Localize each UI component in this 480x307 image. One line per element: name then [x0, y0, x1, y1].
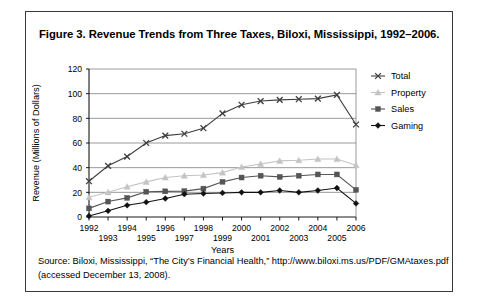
data-point-gaming-1999 [220, 190, 226, 196]
legend-marker-diamond-icon [375, 123, 381, 129]
y-tick-label: 120 [68, 64, 83, 74]
chart-legend: TotalPropertySalesGaming [371, 71, 426, 130]
data-point-sales-2000 [239, 175, 244, 180]
data-point-gaming-1995 [143, 199, 149, 205]
x-tick-label: 1993 [99, 233, 118, 243]
legend-item-gaming[interactable]: Gaming [371, 121, 423, 131]
x-tick-label: 1994 [118, 223, 137, 233]
legend-label: Property [391, 88, 426, 98]
data-point-gaming-1993 [105, 208, 111, 214]
series-line-total [89, 95, 356, 181]
source-note-line-2: (accessed December 13, 2008). [38, 269, 446, 283]
x-tick-label: 1997 [175, 233, 194, 243]
x-tick-label: 2002 [270, 223, 289, 233]
x-tick-label: 2000 [232, 223, 251, 233]
y-tick-label: 60 [72, 138, 82, 148]
y-tick-label: 100 [68, 89, 83, 99]
x-axis-label-text: Years [211, 245, 235, 253]
y-tick-label: 20 [72, 188, 82, 198]
y-tick-label: 80 [72, 114, 82, 124]
data-point-sales-1996 [163, 189, 168, 194]
data-series-group [86, 92, 359, 219]
y-tick-label: 40 [72, 163, 82, 173]
y-axis-tick-labels: 020406080100120 [68, 64, 89, 222]
data-point-gaming-1992 [86, 213, 92, 219]
revenue-trends-line-chart: 020406080100120 199219931994199519961997… [26, 48, 452, 253]
x-tick-label: 2004 [308, 223, 327, 233]
x-tick-label: 1992 [79, 223, 98, 233]
data-point-gaming-2000 [239, 189, 245, 195]
data-point-sales-1994 [125, 195, 130, 200]
x-axis-tick-labels: 1992199319941995199619971998199920002001… [79, 223, 365, 243]
series-gaming [86, 185, 359, 219]
chart-plot-area: 020406080100120 199219931994199519961997… [26, 48, 452, 253]
x-tick-label: 2006 [346, 223, 365, 233]
data-point-sales-2005 [334, 172, 339, 177]
data-point-sales-2006 [354, 187, 359, 192]
data-point-sales-1992 [87, 206, 92, 211]
legend-marker-square-icon [376, 107, 381, 112]
x-tick-label: 2005 [327, 233, 346, 243]
data-point-sales-1993 [106, 199, 111, 204]
data-point-sales-1999 [220, 179, 225, 184]
x-tick-label: 1998 [194, 223, 213, 233]
x-axis-title: Years [211, 245, 235, 253]
data-point-sales-1998 [201, 186, 206, 191]
x-tick-label: 1999 [213, 233, 232, 243]
x-tick-label: 1995 [137, 233, 156, 243]
data-point-gaming-2003 [296, 189, 302, 195]
y-tick-label: 0 [77, 212, 82, 222]
figure-title: Figure 3. Revenue Trends from Three Taxe… [39, 28, 443, 40]
data-point-gaming-1996 [162, 196, 168, 202]
data-point-gaming-1994 [124, 202, 130, 208]
data-point-sales-1995 [144, 189, 149, 194]
x-tick-label: 2001 [251, 233, 270, 243]
data-point-sales-2001 [258, 173, 263, 178]
y-axis-label-text: Revenue (Millions of Dollars) [31, 84, 41, 201]
data-point-sales-2004 [315, 172, 320, 177]
data-point-sales-2003 [296, 173, 301, 178]
legend-label: Sales [391, 104, 414, 114]
legend-item-total[interactable]: Total [371, 71, 410, 81]
data-point-sales-2002 [277, 174, 282, 179]
legend-item-sales[interactable]: Sales [371, 104, 414, 114]
legend-label: Total [391, 71, 410, 81]
source-note: Source: Biloxi, Mississippi, “The City’s… [38, 255, 446, 282]
data-point-gaming-1998 [201, 191, 207, 197]
figure-container: Figure 3. Revenue Trends from Three Taxe… [25, 11, 453, 292]
y-axis-title: Revenue (Millions of Dollars) [31, 84, 41, 201]
x-axis-tick-marks [89, 217, 356, 221]
data-point-gaming-2001 [258, 189, 264, 195]
source-note-line-1: Source: Biloxi, Mississippi, “The City’s… [38, 255, 446, 269]
x-tick-label: 1996 [156, 223, 175, 233]
x-tick-label: 2003 [289, 233, 308, 243]
legend-item-property[interactable]: Property [371, 88, 426, 98]
legend-label: Gaming [391, 121, 423, 131]
